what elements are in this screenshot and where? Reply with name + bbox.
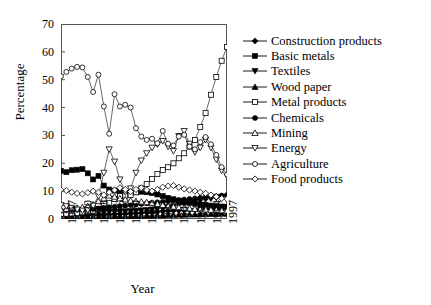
x-tick-label: 1994 bbox=[211, 200, 223, 224]
y-tick-label: 20 bbox=[26, 158, 54, 168]
legend-marker-open-circle-icon bbox=[242, 157, 268, 171]
legend-item: Basic metals bbox=[242, 48, 428, 63]
x-tick-label: 1979 bbox=[130, 200, 142, 224]
legend-marker-open-diamond-icon bbox=[242, 172, 268, 186]
series-agriculture bbox=[61, 64, 227, 177]
legend-label: Construction products bbox=[268, 34, 382, 48]
y-tick-label: 60 bbox=[26, 47, 54, 57]
y-tick-label: 70 bbox=[26, 19, 54, 29]
x-tick-label: 1985 bbox=[162, 200, 174, 224]
x-tick-label: 1991 bbox=[195, 200, 207, 224]
y-tick-label: 40 bbox=[26, 103, 54, 113]
x-axis-title: Year bbox=[55, 281, 230, 297]
x-tick-label: 1973 bbox=[98, 200, 110, 224]
plot-area bbox=[61, 24, 227, 219]
legend-label: Basic metals bbox=[268, 49, 335, 63]
legend-label: Metal products bbox=[268, 95, 346, 109]
legend-marker-filled-triangle-down-icon bbox=[242, 64, 268, 78]
legend-item: Chemicals bbox=[242, 110, 428, 125]
legend-label: Textiles bbox=[268, 64, 310, 78]
legend-label: Chemicals bbox=[268, 111, 324, 125]
legend-label: Mining bbox=[268, 126, 308, 140]
chart-legend: Construction productsBasic metalsTextile… bbox=[242, 33, 428, 187]
x-tick-label: 1982 bbox=[146, 200, 158, 224]
legend-marker-open-triangle-down-icon bbox=[242, 141, 268, 155]
legend-item: Energy bbox=[242, 141, 428, 156]
legend-item: Metal products bbox=[242, 95, 428, 110]
legend-marker-filled-triangle-up-icon bbox=[242, 80, 268, 94]
legend-label: Agriculture bbox=[268, 157, 329, 171]
legend-item: Agriculture bbox=[242, 156, 428, 171]
legend-marker-filled-diamond-icon bbox=[242, 34, 268, 48]
legend-marker-filled-circle-icon bbox=[242, 111, 268, 125]
x-tick-label: 1976 bbox=[114, 200, 126, 224]
legend-marker-filled-square-icon bbox=[242, 49, 268, 63]
chart-figure: Percentage Year 010203040506070 19671970… bbox=[0, 0, 431, 305]
plot-canvas bbox=[61, 24, 227, 219]
legend-item: Textiles bbox=[242, 64, 428, 79]
x-tick-label: 1970 bbox=[82, 200, 94, 224]
legend-item: Construction products bbox=[242, 33, 428, 48]
x-tick-label: 1988 bbox=[178, 200, 190, 224]
legend-label: Wood paper bbox=[268, 80, 331, 94]
y-tick-label: 50 bbox=[26, 75, 54, 85]
y-tick-label: 0 bbox=[26, 214, 54, 224]
legend-label: Food products bbox=[268, 172, 343, 186]
series-layer bbox=[61, 44, 227, 219]
legend-marker-open-triangle-up-icon bbox=[242, 126, 268, 140]
x-tick-label: 1967 bbox=[66, 200, 78, 224]
legend-label: Energy bbox=[268, 141, 307, 155]
x-tick-label: 1997 bbox=[227, 200, 239, 224]
legend-item: Food products bbox=[242, 172, 428, 187]
y-tick-label: 30 bbox=[26, 130, 54, 140]
legend-item: Mining bbox=[242, 125, 428, 140]
y-tick-label: 10 bbox=[26, 186, 54, 196]
legend-item: Wood paper bbox=[242, 79, 428, 94]
legend-marker-open-square-icon bbox=[242, 95, 268, 109]
